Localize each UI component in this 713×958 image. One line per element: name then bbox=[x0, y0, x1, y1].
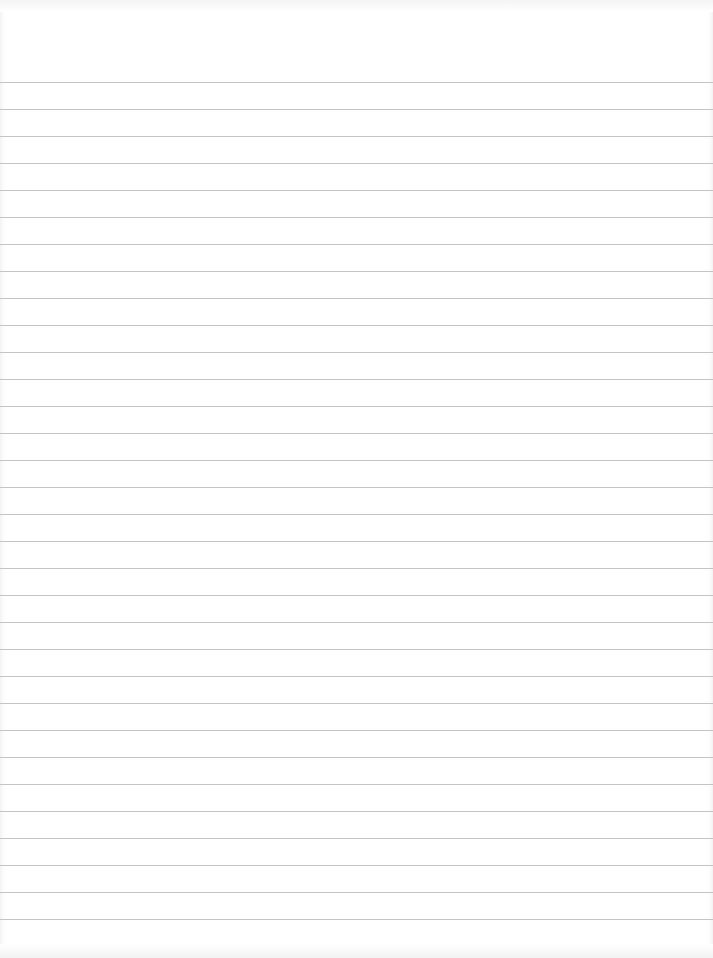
ruled-line bbox=[0, 919, 713, 920]
ruled-line bbox=[0, 163, 713, 164]
ruled-line bbox=[0, 271, 713, 272]
paper-bottom-edge bbox=[0, 944, 713, 958]
ruled-line bbox=[0, 622, 713, 623]
paper-top-edge bbox=[0, 0, 713, 12]
ruled-line bbox=[0, 757, 713, 758]
ruled-line bbox=[0, 784, 713, 785]
ruled-line bbox=[0, 325, 713, 326]
ruled-line bbox=[0, 244, 713, 245]
ruled-line bbox=[0, 406, 713, 407]
ruled-line bbox=[0, 433, 713, 434]
ruled-line bbox=[0, 838, 713, 839]
ruled-line bbox=[0, 649, 713, 650]
ruled-line bbox=[0, 487, 713, 488]
ruled-line bbox=[0, 109, 713, 110]
ruled-line bbox=[0, 352, 713, 353]
ruled-line bbox=[0, 892, 713, 893]
ruled-line bbox=[0, 514, 713, 515]
ruled-line bbox=[0, 379, 713, 380]
ruled-line bbox=[0, 703, 713, 704]
ruled-line bbox=[0, 811, 713, 812]
ruled-line bbox=[0, 730, 713, 731]
ruled-line bbox=[0, 190, 713, 191]
ruled-line bbox=[0, 298, 713, 299]
ruled-line bbox=[0, 595, 713, 596]
ruled-line bbox=[0, 82, 713, 83]
ruled-line bbox=[0, 865, 713, 866]
ruled-line bbox=[0, 676, 713, 677]
ruled-line bbox=[0, 541, 713, 542]
ruled-line bbox=[0, 136, 713, 137]
lined-paper-sheet bbox=[0, 0, 713, 958]
ruled-line bbox=[0, 568, 713, 569]
ruled-line bbox=[0, 460, 713, 461]
ruled-line bbox=[0, 217, 713, 218]
